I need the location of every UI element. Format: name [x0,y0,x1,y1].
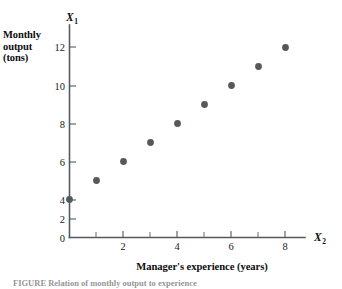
y-tick-label-12: 12 [55,42,66,53]
y-axis-variable-letter: X [65,11,74,23]
data-point [66,196,73,203]
figure-caption: FIGURE Relation of monthly output to exp… [13,279,333,288]
data-point [147,139,154,146]
x-axis-tick-labels: 2 4 6 8 [120,241,287,252]
y-tick-label-6: 6 [60,157,65,168]
x-axis-ticks [96,231,285,238]
data-point [120,158,127,165]
x-tick-label-2: 2 [120,241,125,252]
x-axis-variable-label: X2 [313,231,326,246]
y-tick-label-2: 2 [60,214,65,225]
y-axis-variable-label: X1 [65,11,78,26]
x-axis-title: Manager's experience (years) [0,261,342,272]
data-point [201,101,208,108]
data-point [93,177,100,184]
x-tick-label-8: 8 [282,241,287,252]
origin-label: 0 [60,233,65,244]
data-point [255,63,262,70]
y-tick-label-4: 4 [60,195,66,206]
data-point [282,44,289,51]
y-axis-tick-labels: 12 10 8 6 4 2 [55,42,66,225]
data-point-series [66,44,289,203]
x-tick-label-4: 4 [174,241,180,252]
data-point [228,82,235,89]
data-point [174,120,181,127]
plot-canvas: 12 10 8 6 4 2 0 2 4 6 8 X1 X2 [0,0,342,289]
x-tick-label-6: 6 [228,241,233,252]
y-axis-variable-subscript: 1 [74,17,78,26]
y-axis-ticks [70,47,77,219]
y-tick-label-10: 10 [55,81,66,92]
x-axis-variable-subscript: 2 [322,237,326,246]
scatter-plot-figure: Monthly output (tons) 12 10 8 6 4 2 0 [0,0,342,289]
y-tick-label-8: 8 [60,119,65,130]
x-axis-variable-letter: X [313,231,322,243]
